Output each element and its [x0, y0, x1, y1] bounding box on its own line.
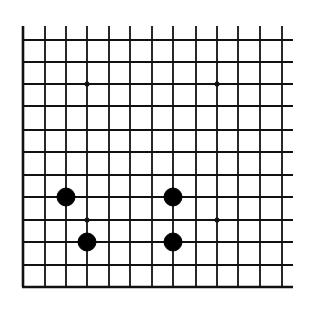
- go-board: [0, 0, 318, 314]
- black-stone-icon: [57, 188, 75, 206]
- star-point-icon: [215, 82, 220, 87]
- black-stone-icon: [164, 188, 182, 206]
- star-point-icon: [85, 218, 90, 223]
- horizontal-grid-lines: [22, 40, 293, 287]
- black-stone-icon: [164, 233, 182, 251]
- star-point-icon: [215, 218, 220, 223]
- vertical-grid-lines: [23, 26, 282, 287]
- black-stone-icon: [78, 233, 96, 251]
- star-point-icon: [85, 82, 90, 87]
